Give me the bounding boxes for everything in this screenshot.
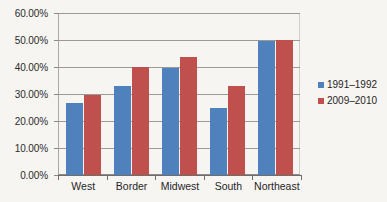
bar-groups bbox=[59, 13, 299, 175]
bar bbox=[228, 86, 245, 175]
legend-label: 1991–1992 bbox=[327, 80, 377, 90]
x-axis-tick bbox=[58, 175, 59, 180]
x-axis-label: Border bbox=[107, 181, 155, 193]
legend-item-series-2: 2009–2010 bbox=[318, 96, 377, 106]
x-axis-tick bbox=[107, 175, 108, 180]
legend-swatch-icon bbox=[318, 82, 324, 88]
y-axis-label: 30.00% bbox=[15, 90, 48, 100]
plot-area bbox=[58, 13, 300, 175]
bar bbox=[84, 95, 101, 175]
x-axis-label: Northeast bbox=[253, 181, 301, 193]
legend-item-series-1: 1991–1992 bbox=[318, 80, 377, 90]
x-axis-label: South bbox=[204, 181, 252, 193]
bar bbox=[258, 41, 275, 175]
bar bbox=[114, 86, 131, 175]
bar-chart: 60.00% 50.00% 40.00% 30.00% 20.00% 10.00… bbox=[0, 0, 387, 202]
x-axis-tick bbox=[301, 175, 302, 180]
bar-group bbox=[203, 13, 251, 175]
bar-group bbox=[155, 13, 203, 175]
x-axis-label: Midwest bbox=[156, 181, 204, 193]
y-axis: 60.00% 50.00% 40.00% 30.00% 20.00% 10.00… bbox=[0, 0, 56, 202]
bar-group bbox=[107, 13, 155, 175]
legend-label: 2009–2010 bbox=[327, 96, 377, 106]
bar-group bbox=[251, 13, 299, 175]
y-axis-label: 50.00% bbox=[15, 36, 48, 46]
bar bbox=[180, 57, 197, 175]
bar bbox=[162, 68, 179, 175]
legend: 1991–1992 2009–2010 bbox=[318, 80, 377, 106]
y-axis-label: 40.00% bbox=[15, 63, 48, 73]
bar bbox=[132, 67, 149, 175]
y-axis-label: 10.00% bbox=[15, 144, 48, 154]
y-axis-label: 60.00% bbox=[15, 9, 48, 19]
bar bbox=[66, 103, 83, 175]
x-axis-label: West bbox=[59, 181, 107, 193]
bar-group bbox=[59, 13, 107, 175]
bar bbox=[276, 40, 293, 175]
x-axis-labels: WestBorderMidwestSouthNortheast bbox=[59, 181, 301, 193]
x-axis-tick bbox=[204, 175, 205, 180]
x-axis-tick bbox=[155, 175, 156, 180]
y-axis-label: 20.00% bbox=[15, 117, 48, 127]
legend-swatch-icon bbox=[318, 98, 324, 104]
bar bbox=[210, 108, 227, 176]
y-axis-label: 0.00% bbox=[20, 171, 48, 181]
